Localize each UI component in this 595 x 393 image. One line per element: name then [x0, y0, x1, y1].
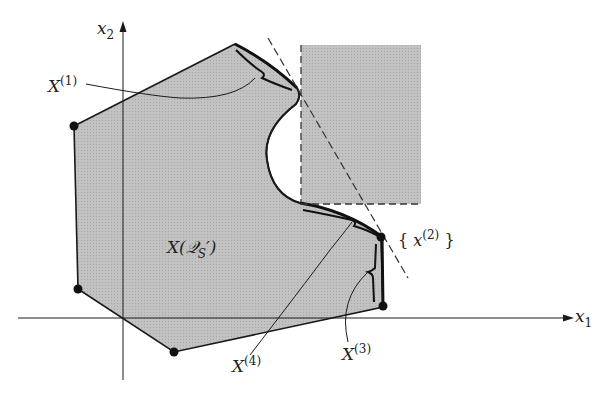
vertex-left-bottom	[74, 285, 83, 294]
vertex-x2	[377, 233, 386, 242]
vertex-left-top	[70, 122, 79, 131]
label-x3: X(3)	[340, 342, 371, 364]
vertex-bottom	[170, 348, 179, 357]
feasible-region-diagram: x2 x1 X(𝒬S′) X(1) { x(2) } X(3) X(4)	[0, 0, 595, 393]
x2-axis-arrow-icon	[120, 21, 127, 32]
label-x4: X(4)	[230, 354, 261, 376]
label-x2: { x(2) }	[398, 228, 455, 250]
vertex-right-bottom	[379, 302, 388, 311]
label-x1: X(1)	[46, 74, 77, 96]
x2-axis-label: x2	[97, 18, 114, 42]
x1-axis-label: x1	[575, 306, 592, 330]
x1-axis-arrow-icon	[563, 315, 574, 322]
efficient-edge-vertical	[382, 236, 383, 307]
